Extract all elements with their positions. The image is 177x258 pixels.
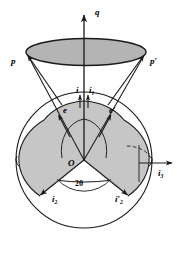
label-i2-sub: 2: [55, 199, 58, 205]
label-angle-2theta: 2θ: [75, 180, 83, 188]
cone-cap-disk: [26, 39, 146, 66]
label-e: e: [63, 106, 67, 115]
label-i1: i1: [89, 86, 94, 95]
label-i2: i2: [52, 195, 57, 204]
label-i3-sub: 3: [161, 173, 164, 179]
label-q: q: [95, 8, 100, 17]
label-p: p: [11, 57, 16, 66]
label-e-prime: e′: [109, 106, 116, 115]
geometry-diagram-svg: [0, 0, 177, 258]
label-i3: i3: [158, 169, 163, 178]
label-origin: O: [68, 159, 75, 168]
label-i2-prime: i′2: [115, 195, 123, 204]
label-i2-prime-sub: 2: [120, 199, 123, 205]
label-i1-sub: 1: [92, 90, 95, 96]
label-i: i: [76, 86, 79, 95]
figure-container: q p p′ e e′ i i1 i2 i′2 i3 O 2θ: [0, 0, 177, 258]
label-p-prime: p′: [150, 57, 157, 66]
